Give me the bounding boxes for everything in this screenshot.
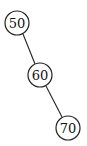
tree-diagram: 50 60 70 bbox=[0, 0, 87, 146]
node-label: 60 bbox=[32, 68, 49, 83]
tree-node-60: 60 bbox=[28, 63, 52, 87]
edge-50-60 bbox=[23, 34, 35, 64]
edge-60-70 bbox=[46, 86, 62, 117]
tree-node-70: 70 bbox=[56, 116, 80, 140]
node-label: 70 bbox=[60, 121, 77, 136]
tree-node-50: 50 bbox=[5, 11, 29, 35]
node-label: 50 bbox=[9, 16, 26, 31]
